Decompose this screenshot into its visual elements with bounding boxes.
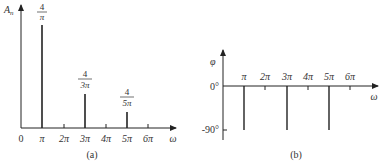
a-xtick-label: π — [39, 133, 45, 144]
b-caption: (b) — [290, 149, 302, 161]
panel-b-phase-spectrum: φ 0° -90° π 2π 3π 4π 5π 6π ω (b) — [202, 50, 378, 161]
b-xtick-label: π — [241, 71, 247, 82]
a-x-label: ω — [169, 133, 176, 144]
b-xtick-label: 6π — [345, 71, 356, 82]
b-neg90-label: -90° — [202, 124, 219, 135]
svg-text:π: π — [40, 12, 45, 22]
b-xtick-label: 2π — [260, 71, 271, 82]
a-y-label: An — [3, 4, 14, 17]
a-xtick-label: 6π — [143, 133, 154, 144]
a-xtick-label: 4π — [101, 133, 112, 144]
svg-text:4: 4 — [83, 69, 88, 79]
b-xtick-label: 5π — [324, 71, 335, 82]
a-xtick-label: 3π — [79, 133, 91, 144]
svg-text:5π: 5π — [122, 98, 132, 108]
b-xtick-label: 3π — [281, 71, 293, 82]
svg-text:3π: 3π — [79, 80, 90, 90]
a-origin-label: 0 — [19, 133, 24, 144]
svg-text:4: 4 — [40, 2, 45, 12]
a-xtick-label: 5π — [122, 133, 133, 144]
b-x-label: ω — [370, 91, 377, 102]
panel-a-amplitude-spectrum: An 4 π 4 3π 4 5π 0 π 2π 3π 4π 5π — [3, 2, 177, 161]
a-xtick-label: 2π — [59, 133, 70, 144]
b-xtick-label: 4π — [303, 71, 314, 82]
a-value-label-pi: 4 π — [37, 2, 47, 22]
b-y-label: φ — [210, 56, 216, 67]
b-zero-label: 0° — [210, 81, 219, 92]
figure: An 4 π 4 3π 4 5π 0 π 2π 3π 4π 5π — [0, 0, 384, 167]
svg-text:4: 4 — [125, 87, 130, 97]
a-value-label-5pi: 4 5π — [120, 87, 134, 108]
a-caption: (a) — [86, 149, 97, 161]
a-value-label-3pi: 4 3π — [78, 69, 92, 90]
